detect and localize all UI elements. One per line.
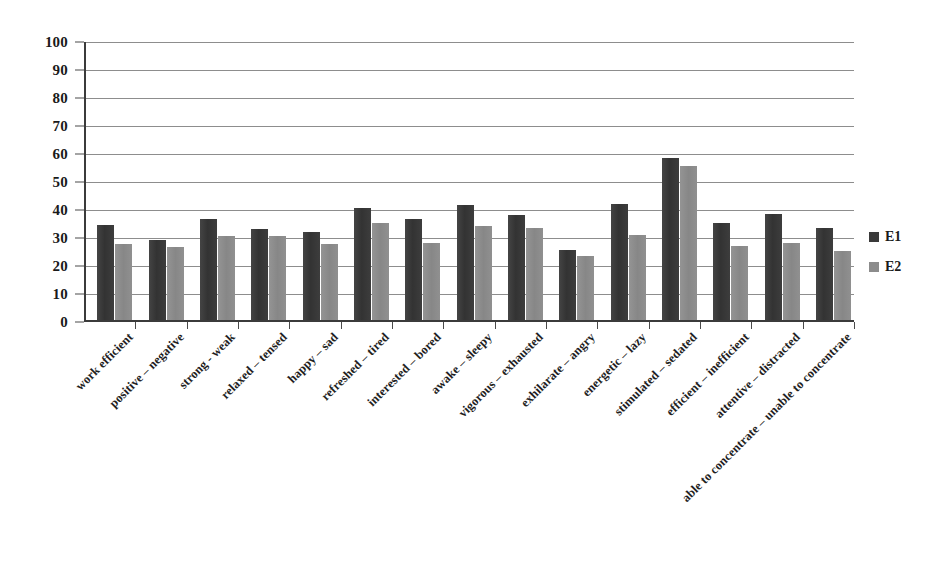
y-tick-mark xyxy=(75,70,84,71)
bar-e1 xyxy=(508,215,525,320)
bar-e1 xyxy=(200,219,217,320)
x-tick-mark xyxy=(854,322,855,329)
bar-e2 xyxy=(372,223,389,320)
x-tick-mark xyxy=(392,322,393,329)
bar-e2 xyxy=(834,251,851,320)
bar-e2 xyxy=(218,236,235,320)
x-axis-labels: work efficientpositive – negativestrong … xyxy=(84,330,874,570)
bar-e2 xyxy=(783,243,800,320)
bar-e2 xyxy=(475,226,492,320)
y-tick-label: 100 xyxy=(45,34,68,51)
bar-e2 xyxy=(629,235,646,320)
y-tick-mark xyxy=(75,210,84,211)
bar-e2 xyxy=(680,166,697,320)
x-axis-label: attentive – distracted xyxy=(712,330,804,422)
bar-group xyxy=(354,42,389,320)
bar-e1 xyxy=(303,232,320,320)
y-tick-mark xyxy=(75,98,84,99)
y-tick-label: 50 xyxy=(53,174,68,191)
x-tick-mark xyxy=(700,322,701,329)
x-tick-mark xyxy=(341,322,342,329)
legend-label-e2: E2 xyxy=(885,259,901,275)
x-tick-mark xyxy=(546,322,547,329)
plot-area xyxy=(84,42,854,322)
bar-group xyxy=(508,42,543,320)
bar-e1 xyxy=(405,219,422,320)
bar-group xyxy=(713,42,748,320)
legend-item-e1: E1 xyxy=(869,222,939,252)
bar-e1 xyxy=(765,214,782,320)
bar-e1 xyxy=(713,223,730,320)
chart-legend: E1 E2 xyxy=(869,222,939,282)
y-tick-mark xyxy=(75,182,84,183)
bar-group xyxy=(200,42,235,320)
bar-e1 xyxy=(354,208,371,320)
bar-e2 xyxy=(321,244,338,320)
bar-e2 xyxy=(577,256,594,320)
y-tick-label: 30 xyxy=(53,230,68,247)
y-tick-mark xyxy=(75,266,84,267)
x-tick-mark xyxy=(289,322,290,329)
y-tick-label: 10 xyxy=(53,286,68,303)
bar-e1 xyxy=(457,205,474,320)
bar-e2 xyxy=(423,243,440,320)
y-tick-label: 90 xyxy=(53,62,68,79)
bar-chart: 1009080706050403020100 work efficientpos… xyxy=(0,0,945,581)
bar-e2 xyxy=(731,246,748,320)
bar-e1 xyxy=(97,225,114,320)
y-tick-label: 60 xyxy=(53,146,68,163)
bar-e1 xyxy=(149,240,166,320)
bar-e1 xyxy=(816,228,833,320)
bar-e2 xyxy=(115,244,132,320)
bar-e2 xyxy=(167,247,184,320)
legend-swatch-icon-e1 xyxy=(869,232,879,242)
bar-group xyxy=(457,42,492,320)
x-tick-mark xyxy=(187,322,188,329)
x-tick-mark xyxy=(443,322,444,329)
x-tick-mark xyxy=(649,322,650,329)
y-tick-mark xyxy=(75,42,84,43)
y-axis: 1009080706050403020100 xyxy=(0,0,84,322)
bar-e1 xyxy=(611,204,628,320)
bar-group xyxy=(405,42,440,320)
bar-group xyxy=(662,42,697,320)
y-tick-label: 70 xyxy=(53,118,68,135)
bar-group xyxy=(97,42,132,320)
y-tick-mark xyxy=(75,322,84,323)
legend-label-e1: E1 xyxy=(885,229,901,245)
bar-group xyxy=(149,42,184,320)
x-tick-mark xyxy=(597,322,598,329)
bar-group xyxy=(611,42,646,320)
x-tick-mark xyxy=(135,322,136,329)
bar-group xyxy=(251,42,286,320)
legend-swatch-icon-e2 xyxy=(869,262,879,272)
bar-e1 xyxy=(662,158,679,320)
x-tick-mark xyxy=(803,322,804,329)
bar-group xyxy=(559,42,594,320)
bars-layer xyxy=(86,42,854,320)
x-tick-mark xyxy=(238,322,239,329)
x-axis-ticks xyxy=(84,322,854,330)
y-tick-label: 80 xyxy=(53,90,68,107)
x-tick-mark xyxy=(751,322,752,329)
y-tick-mark xyxy=(75,238,84,239)
y-tick-mark xyxy=(75,294,84,295)
bar-e2 xyxy=(269,236,286,320)
y-tick-label: 0 xyxy=(60,314,68,331)
legend-item-e2: E2 xyxy=(869,252,939,282)
bar-e2 xyxy=(526,228,543,320)
bar-e1 xyxy=(251,229,268,320)
y-tick-label: 20 xyxy=(53,258,68,275)
bar-group xyxy=(303,42,338,320)
y-tick-mark xyxy=(75,154,84,155)
bar-group xyxy=(816,42,851,320)
y-tick-label: 40 xyxy=(53,202,68,219)
y-tick-mark xyxy=(75,126,84,127)
bar-group xyxy=(765,42,800,320)
bar-e1 xyxy=(559,250,576,320)
x-tick-mark xyxy=(495,322,496,329)
